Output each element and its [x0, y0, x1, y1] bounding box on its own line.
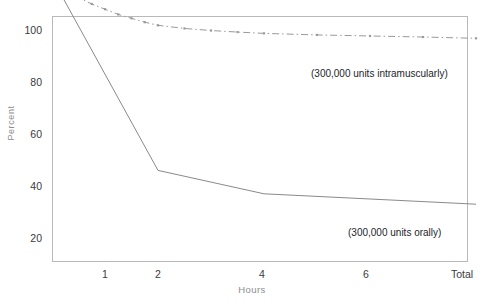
series-oral-marker	[183, 27, 185, 29]
ytick-label-100: 100	[8, 24, 42, 36]
chart-figure: 100 80 60 40 20 1 2 4 6 Total Percent Ho…	[0, 0, 494, 304]
annotation-intramuscular: (300,000 units intramuscularly)	[311, 68, 448, 79]
annotation-oral: (300,000 units orally)	[348, 227, 441, 238]
series-oral-marker	[157, 24, 159, 26]
xtick-label-2: 2	[155, 268, 161, 280]
x-axis-title: Hours	[222, 284, 282, 295]
series-oral-marker	[210, 29, 212, 31]
series-oral-marker	[263, 32, 265, 34]
series-oral-marker	[422, 36, 424, 38]
xtick-label-6: 6	[363, 268, 369, 280]
chart-svg	[0, 0, 494, 304]
series-intramuscular-line	[52, 0, 476, 204]
ytick-label-40: 40	[8, 180, 42, 192]
series-oral-markers	[51, 0, 477, 39]
ytick-label-20: 20	[8, 232, 42, 244]
series-oral-marker	[104, 8, 106, 10]
series-oral-marker	[144, 21, 146, 23]
series-oral-marker	[117, 13, 119, 15]
series-oral-marker	[130, 17, 132, 19]
ytick-label-80: 80	[8, 76, 42, 88]
series-oral-marker	[91, 3, 93, 5]
xtick-label-4: 4	[259, 268, 265, 280]
y-axis-title: Percent	[6, 91, 16, 155]
series-oral-marker	[236, 31, 238, 33]
series-oral-marker	[369, 35, 371, 37]
series-paths	[51, 0, 477, 204]
series-oral-marker	[316, 34, 318, 36]
xtick-label-1: 1	[102, 268, 108, 280]
series-oral-marker	[475, 37, 477, 39]
xtick-label-total: Total	[451, 268, 473, 280]
